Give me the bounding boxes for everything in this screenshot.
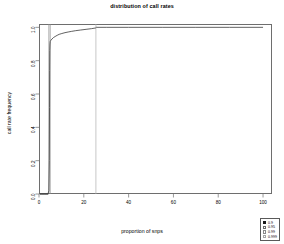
chart-legend: 0.90.950.990.999 (260, 218, 280, 241)
legend-item: 0.999 (263, 235, 277, 239)
y-tick-label: 0.4 (31, 127, 36, 143)
y-axis-label: call rate frequency (6, 68, 12, 158)
legend-label: 0.9 (268, 221, 273, 225)
legend-label: 0.95 (268, 225, 275, 229)
legend-item: 0.95 (263, 225, 277, 229)
x-tick-label: 60 (165, 200, 181, 205)
legend-swatch-icon (263, 230, 266, 233)
plot-canvas (0, 0, 284, 244)
data-series (40, 27, 263, 194)
legend-item: 0.9 (263, 221, 277, 225)
legend-label: 0.99 (268, 230, 275, 234)
legend-swatch-icon (263, 221, 266, 224)
legend-swatch-icon (263, 235, 266, 238)
legend-swatch-icon (263, 226, 266, 229)
legend-item: 0.99 (263, 230, 277, 234)
y-tick-label: 0.6 (31, 94, 36, 110)
y-tick-label: 0.2 (31, 160, 36, 176)
x-tick-label: 20 (76, 200, 92, 205)
axis-ticks (36, 27, 264, 197)
x-axis-label: proportion of snps (0, 228, 284, 234)
x-tick-label: 80 (210, 200, 226, 205)
y-tick-label: 1.0 (31, 27, 36, 43)
chart-figure: distribution of call rates 0.00.20.40.60… (0, 0, 284, 244)
vertical-reference-lines (49, 24, 96, 194)
x-tick-label: 0 (31, 200, 47, 205)
x-tick-label: 40 (121, 200, 137, 205)
y-tick-label: 0.8 (31, 60, 36, 76)
legend-label: 0.999 (268, 235, 277, 239)
x-tick-label: 100 (255, 200, 271, 205)
